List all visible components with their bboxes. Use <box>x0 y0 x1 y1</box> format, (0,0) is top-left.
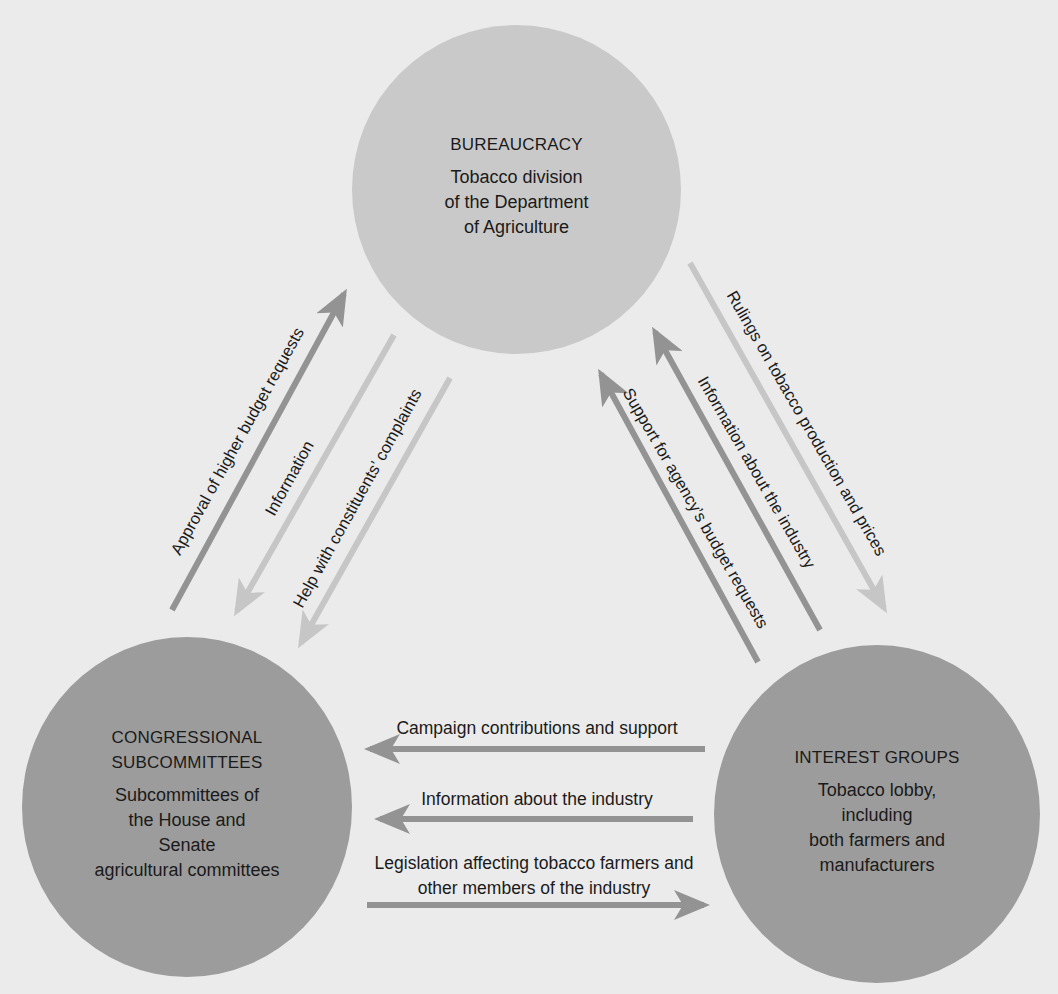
interest-line-1: Tobacco lobby, <box>794 778 959 803</box>
interest-line-4: manufacturers <box>794 853 959 878</box>
congress-line-4: agricultural committees <box>94 858 279 883</box>
interest-line-2: including <box>794 803 959 828</box>
arrow-help <box>301 378 450 643</box>
bureaucracy-line-3: of Agriculture <box>444 215 588 240</box>
congress-line-1: Subcommittees of <box>94 783 279 808</box>
label-legislation-line-2: other members of the industry <box>418 876 650 901</box>
bureaucracy-line-1: Tobacco division <box>444 165 588 190</box>
congress-title-line-1: CONGRESSIONAL <box>94 725 279 750</box>
bureaucracy-title: BUREAUCRACY <box>444 132 588 157</box>
node-congressional-subcommittees: CONGRESSIONAL SUBCOMMITTEES Subcommittee… <box>22 637 352 977</box>
node-bureaucracy: BUREAUCRACY Tobacco division of the Depa… <box>352 25 681 354</box>
congress-line-2: the House and <box>94 808 279 833</box>
bureaucracy-line-2: of the Department <box>444 190 588 215</box>
congress-line-3: Senate <box>94 833 279 858</box>
iron-triangle-diagram: BUREAUCRACY Tobacco division of the Depa… <box>0 0 1058 994</box>
congress-title-line-2: SUBCOMMITTEES <box>94 750 279 775</box>
interest-line-3: both farmers and <box>794 828 959 853</box>
node-interest-groups: INTEREST GROUPS Tobacco lobby, including… <box>714 645 1040 983</box>
label-campaign: Campaign contributions and support <box>396 716 677 741</box>
interest-title: INTEREST GROUPS <box>794 745 959 770</box>
label-info-industry-bottom: Information about the industry <box>421 787 653 812</box>
label-legislation-line-1: Legislation affecting tobacco farmers an… <box>375 851 694 876</box>
